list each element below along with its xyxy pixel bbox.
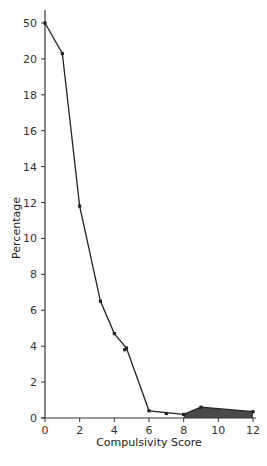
data-point-marker xyxy=(199,406,202,409)
data-point-marker xyxy=(99,300,102,303)
compulsivity-chart: 0246810121416182050 024681012 Compulsivi… xyxy=(0,0,267,466)
y-tick-label: 14 xyxy=(23,161,37,174)
y-axis-ticks: 0246810121416182050 xyxy=(23,17,45,425)
y-tick-label: 20 xyxy=(23,53,37,66)
x-tick-label: 10 xyxy=(211,424,225,437)
y-tick-label: 6 xyxy=(30,304,37,317)
series-line xyxy=(45,23,253,414)
data-point-marker xyxy=(123,348,126,351)
x-tick-label: 0 xyxy=(42,424,49,437)
y-axis-title: Percentage xyxy=(10,197,23,259)
data-point-marker xyxy=(251,410,254,413)
y-tick-label: 0 xyxy=(30,412,37,425)
y-tick-label: 4 xyxy=(30,340,37,353)
x-tick-label: 12 xyxy=(246,424,260,437)
y-tick-label: 8 xyxy=(30,268,37,281)
data-point-marker xyxy=(61,52,64,55)
y-tick-label: 16 xyxy=(23,125,37,138)
x-axis-ticks: 024681012 xyxy=(42,418,261,437)
y-tick-label: 12 xyxy=(23,197,37,210)
data-point-marker xyxy=(113,332,116,335)
y-tick-label: 50 xyxy=(23,17,37,30)
y-tick-label: 10 xyxy=(23,232,37,245)
x-tick-label: 2 xyxy=(76,424,83,437)
y-tick-label: 18 xyxy=(23,89,37,102)
axes xyxy=(41,10,256,418)
data-line xyxy=(45,23,253,414)
y-tick-label: 2 xyxy=(30,376,37,389)
x-axis-title: Compulsivity Score xyxy=(96,436,202,449)
data-point-marker xyxy=(182,413,185,416)
data-point-marker xyxy=(165,412,168,415)
data-point-marker xyxy=(147,409,150,412)
data-point-marker xyxy=(78,205,81,208)
data-markers xyxy=(43,21,254,416)
